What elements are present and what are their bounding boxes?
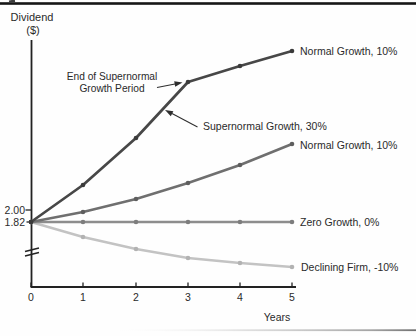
- top-page-rule: [0, 2, 416, 5]
- data-point-normal-growth-year-5: [290, 142, 295, 147]
- data-point-zero-growth-year-2: [134, 220, 139, 225]
- x-tick-label: 1: [80, 291, 86, 303]
- y-axis-title: Dividend: [11, 11, 54, 23]
- data-point-supernormal-then-normal-growth-year-4: [238, 64, 243, 69]
- y-axis-units: ($): [26, 24, 39, 36]
- end-supernormal-annotation-line2: Growth Period: [79, 83, 144, 94]
- data-point-zero-growth-year-4: [238, 220, 243, 225]
- series-line-declining-firm: [31, 222, 292, 267]
- series-label-zero-growth: Zero Growth, 0%: [300, 216, 379, 228]
- data-point-supernormal-then-normal-growth-year-5: [290, 49, 295, 54]
- data-point-declining-firm-year-1: [81, 235, 86, 240]
- data-point-declining-firm-year-4: [238, 261, 243, 266]
- data-point-zero-growth-year-1: [81, 220, 86, 225]
- series-label-supernormal: Supernormal Growth, 30%: [203, 120, 327, 132]
- data-point-supernormal-then-normal-growth-year-0: [29, 220, 34, 225]
- data-point-normal-growth-year-2: [134, 197, 139, 202]
- x-tick-label: 0: [28, 291, 34, 303]
- data-point-declining-firm-year-5: [290, 265, 295, 270]
- x-tick-label: 2: [133, 291, 139, 303]
- data-point-normal-growth-year-3: [186, 181, 191, 186]
- series-label-supernormal-then-normal: Normal Growth, 10%: [300, 45, 397, 57]
- data-point-supernormal-then-normal-growth-year-1: [81, 183, 86, 188]
- dividend-growth-chart: 012345 Dividend ($) 2.00 1.82 Years End …: [0, 0, 416, 336]
- data-point-supernormal-then-normal-growth-year-3: [186, 80, 191, 85]
- data-point-zero-growth-year-5: [290, 220, 295, 225]
- annotation-arrows: [157, 81, 198, 127]
- end-supernormal-annotation-line1: End of Supernormal: [67, 71, 158, 82]
- series-line-normal-growth: [31, 144, 292, 222]
- data-point-supernormal-then-normal-growth-year-2: [134, 136, 139, 141]
- bottom-page-rule: [110, 329, 416, 331]
- end-supernormal-arrowhead-icon: [174, 81, 182, 87]
- y-tick-label-1.82: 1.82: [5, 216, 26, 228]
- data-point-normal-growth-year-4: [238, 163, 243, 168]
- x-tick-label: 5: [289, 291, 295, 303]
- data-point-declining-firm-year-3: [186, 256, 191, 261]
- data-point-normal-growth-year-1: [81, 210, 86, 215]
- x-ticks: 012345: [28, 283, 295, 304]
- x-tick-label: 3: [185, 291, 191, 303]
- end-supernormal-arrow-line: [157, 84, 175, 88]
- x-axis-label: Years: [264, 311, 290, 323]
- data-point-zero-growth-year-3: [186, 220, 191, 225]
- series-label-normal-growth: Normal Growth, 10%: [300, 139, 397, 151]
- supernormal-arrowhead-icon: [165, 110, 173, 116]
- series-label-declining-firm: Declining Firm, -10%: [301, 261, 398, 273]
- supernormal-arrow-line: [172, 114, 198, 128]
- x-tick-label: 4: [237, 291, 243, 303]
- data-point-declining-firm-year-2: [134, 247, 139, 252]
- y-tick-label-2.00: 2.00: [5, 204, 26, 216]
- figure-page: 012345 Dividend ($) 2.00 1.82 Years End …: [0, 0, 416, 336]
